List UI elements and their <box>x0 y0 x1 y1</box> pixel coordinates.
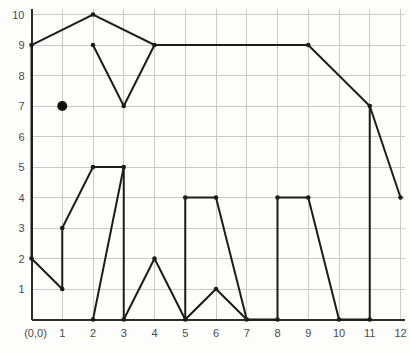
axes <box>32 9 405 320</box>
vertex-marker <box>121 317 126 322</box>
vertex-marker <box>60 226 65 231</box>
vertex-marker <box>152 256 157 261</box>
vertex-marker <box>275 195 280 200</box>
vertex-marker <box>60 287 65 292</box>
y-axis-tick-label: 10 <box>12 9 24 21</box>
vertex-marker <box>214 195 219 200</box>
vertex-marker <box>214 287 219 292</box>
y-axis-tick-label: 4 <box>18 192 24 204</box>
y-axis-tick-label: 2 <box>18 253 24 265</box>
vertex-marker <box>91 165 96 170</box>
vertex-marker <box>244 317 249 322</box>
x-axis-tick-label: 7 <box>244 327 250 339</box>
elephant-plot: 12345678910(0,0)123456789101112 <box>0 0 410 353</box>
eye-dot <box>57 101 67 111</box>
x-axis-tick-label: 8 <box>274 327 280 339</box>
vertex-marker <box>91 317 96 322</box>
vertex-marker <box>306 43 311 48</box>
vertex-marker <box>183 317 188 322</box>
gridlines <box>32 9 405 320</box>
y-axis-tick-label: 3 <box>18 222 24 234</box>
vertex-marker <box>306 195 311 200</box>
x-axis-tick-label: 12 <box>394 327 406 339</box>
vertex-marker <box>91 43 96 48</box>
vertex-marker <box>121 104 126 109</box>
x-axis-tick-label: 10 <box>333 327 345 339</box>
vertex-marker <box>367 104 372 109</box>
y-axis-tick-label: 1 <box>18 283 24 295</box>
y-axis-tick-label: 5 <box>18 161 24 173</box>
vertex-marker <box>29 256 34 261</box>
x-axis-tick-label: 2 <box>90 327 96 339</box>
path-trunk-and-front-leg <box>32 167 124 320</box>
coordinate-grid-figure: 12345678910(0,0)123456789101112 <box>0 0 410 353</box>
origin-label: (0,0) <box>24 327 47 339</box>
x-axis-tick-label: 9 <box>305 327 311 339</box>
x-axis-tick-label: 4 <box>151 327 157 339</box>
x-axis-tick-label: 3 <box>121 327 127 339</box>
y-axis-tick-label: 8 <box>18 70 24 82</box>
vertex-marker <box>29 43 34 48</box>
vertex-marker <box>152 43 157 48</box>
vertex-marker <box>91 12 96 17</box>
vertex-marker <box>398 195 403 200</box>
x-axis-tick-label: 5 <box>182 327 188 339</box>
y-axis-tick-label: 6 <box>18 131 24 143</box>
vertex-marker <box>121 165 126 170</box>
vertex-marker <box>337 317 342 322</box>
annotations-layer <box>57 101 67 111</box>
vertex-marker <box>183 195 188 200</box>
x-axis-tick-label: 6 <box>213 327 219 339</box>
x-axis-tick-label: 11 <box>364 327 375 339</box>
vertex-marker <box>367 317 372 322</box>
y-axis-tick-label: 9 <box>18 39 24 51</box>
x-axis-tick-label: 1 <box>59 327 65 339</box>
vertex-marker <box>275 317 280 322</box>
y-axis-tick-label: 7 <box>18 100 24 112</box>
